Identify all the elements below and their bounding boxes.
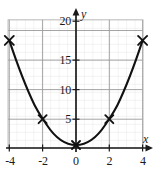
x-tick-label-2: 2 xyxy=(102,155,118,167)
graph-canvas xyxy=(0,0,156,174)
parabola-graph: 20 15 10 5 -4 -2 0 2 4 y x xyxy=(0,0,156,174)
x-tick-label-neg4: -4 xyxy=(2,155,18,167)
y-axis-label: y xyxy=(81,8,86,20)
x-tick-label-4: 4 xyxy=(135,155,151,167)
x-tick-label-0: 0 xyxy=(68,155,84,167)
y-tick-label-10: 10 xyxy=(54,84,71,96)
x-tick-label-neg2: -2 xyxy=(35,155,51,167)
y-tick-label-15: 15 xyxy=(54,54,71,66)
y-tick-label-20: 20 xyxy=(54,15,71,27)
y-tick-label-5: 5 xyxy=(54,113,71,125)
x-axis-label: x xyxy=(143,133,148,145)
